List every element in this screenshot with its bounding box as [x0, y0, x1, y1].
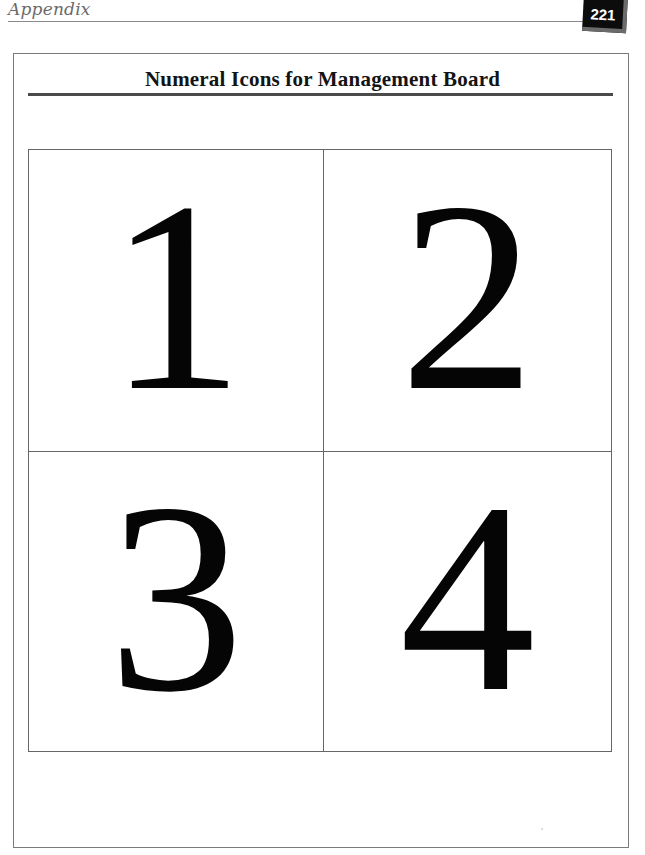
page-title: Numeral Icons for Management Board: [0, 67, 645, 92]
numeral-cell-4: 4: [323, 451, 611, 751]
numeral-cell-2: 2: [323, 150, 611, 451]
numeral-1: 1: [108, 161, 244, 433]
numeral-grid: 1 2 3 4: [28, 149, 612, 752]
numeral-4: 4: [400, 462, 536, 734]
page-number-badge: 221: [582, 0, 628, 33]
numeral-cell-1: 1: [29, 150, 323, 451]
page-number: 221: [590, 6, 616, 22]
header-rule: [8, 21, 586, 22]
running-head-section-label: Appendix: [8, 0, 91, 19]
numeral-3: 3: [108, 462, 244, 734]
title-rule: [28, 93, 613, 96]
scan-speck: [541, 828, 543, 830]
numeral-cell-3: 3: [29, 451, 323, 751]
numeral-2: 2: [400, 161, 536, 433]
